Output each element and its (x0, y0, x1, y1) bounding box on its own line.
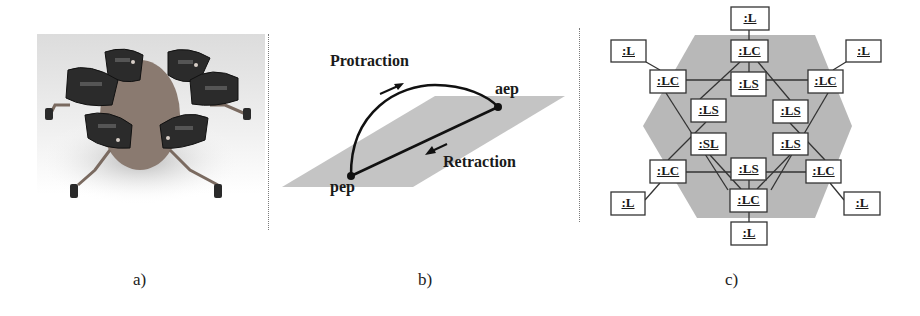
node-lc-upper-right: :LC (808, 73, 843, 89)
caption-c: c) (725, 270, 738, 290)
node-ls-lower-right: :LS (773, 136, 808, 152)
node-ls-upper-left: :LS (691, 102, 726, 118)
node-lc-lower-left: :LC (650, 163, 686, 179)
node-lc-bottom: :LC (730, 192, 767, 208)
node-l-upper-right: :L (846, 43, 881, 59)
node-lc-lower-right: :LC (806, 163, 841, 179)
node-lc-upper-left: :LC (650, 73, 686, 89)
node-ls-top: :LS (731, 76, 766, 92)
node-l-upper-left: :L (611, 43, 646, 59)
node-l-bottom: :L (731, 225, 767, 241)
node-sl-center: :SL (691, 136, 726, 152)
node-l-lower-right: :L (844, 195, 880, 211)
network-diagram (0, 0, 920, 316)
node-lc-top: :LC (731, 43, 768, 59)
panel-c: :L :LC :LS :L :L :LC :LC :LS :LS :SL :LS… (0, 0, 920, 316)
node-l-top: :L (731, 10, 769, 26)
node-l-lower-left: :L (611, 195, 645, 211)
node-ls-bottom: :LS (731, 161, 766, 177)
node-ls-upper-right: :LS (773, 103, 808, 119)
